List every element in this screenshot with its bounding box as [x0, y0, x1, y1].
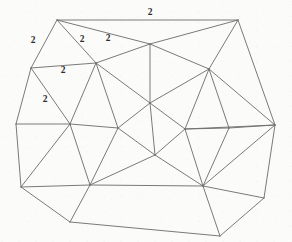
graph-edge-v6-v11: [185, 69, 209, 129]
graph-edge-v17-v19: [203, 186, 220, 236]
edge-weight-label: 2: [80, 35, 85, 45]
graph-edge-v11-v14: [155, 129, 185, 155]
graph-edge-v4-v5: [96, 44, 150, 63]
graph-edge-v14-v17: [155, 155, 203, 186]
graph-edge-v14-v16: [90, 155, 155, 185]
graph-edge-v9-v10: [70, 124, 118, 128]
graph-edge-v16-v18: [70, 185, 90, 222]
edge-weight-label: 2: [43, 95, 48, 105]
graph-edge-v2-v6: [209, 20, 238, 69]
graph-edge-v4-v7: [96, 63, 150, 103]
graph-edge-v17-v20: [203, 186, 264, 198]
graph-edge-v6-v7: [150, 69, 209, 103]
graph-edge-v5-v6: [150, 44, 209, 69]
graph-edge-v7-v10: [118, 103, 150, 128]
graph-edge-v13-v17: [203, 125, 275, 186]
graph-edge-v4-v9: [70, 63, 96, 124]
edge-group: [16, 20, 275, 236]
graph-edge-v2-v5: [150, 20, 238, 44]
graph-edge-v16-v17: [90, 185, 203, 186]
graph-edge-v10-v16: [90, 128, 118, 185]
graph-edge-v7-v11: [150, 103, 185, 129]
graph-edge-v15-v18: [21, 187, 70, 222]
graph-edge-v1-v5: [57, 20, 150, 44]
figure-root: 222222: [0, 0, 292, 242]
graph-edge-v18-v19: [70, 222, 220, 236]
edge-weight-label: 2: [106, 34, 111, 44]
graph-edge-v7-v14: [150, 103, 155, 155]
graph-edge-v8-v15: [16, 124, 21, 187]
graph-edge-v10-v14: [118, 128, 155, 155]
graph-edge-v19-v20: [220, 198, 264, 236]
graph-edge-v12-v17: [203, 128, 229, 186]
graph-edge-v4-v10: [96, 63, 118, 128]
graph-edge-v9-v15: [21, 124, 70, 187]
edge-weight-label: 2: [61, 66, 66, 76]
edge-weight-label: 2: [148, 8, 153, 18]
graph-edge-v15-v16: [21, 185, 90, 187]
mesh-graph-svg: [0, 0, 292, 242]
edge-weight-label: 2: [31, 36, 36, 46]
graph-edge-v13-v20: [264, 125, 275, 198]
graph-edge-v3-v9: [31, 68, 70, 124]
graph-edge-v1-v4: [57, 20, 96, 63]
graph-edge-v11-v17: [185, 129, 203, 186]
graph-edge-v9-v16: [70, 124, 90, 185]
graph-edge-v3-v8: [16, 68, 31, 124]
